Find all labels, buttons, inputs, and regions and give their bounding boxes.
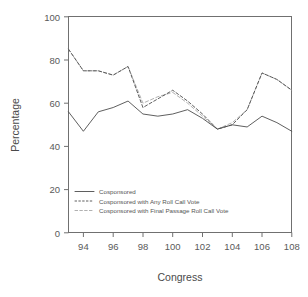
y-axis-title: Percentage	[9, 98, 21, 152]
legend-label-any-roll-call: Cosponsored with Any Roll Call Vote	[99, 198, 200, 205]
chart-canvas: 100 80 60 40 20 0 94 96 98 100 102 104 1…	[0, 0, 308, 297]
legend-label-final-passage: Cosponsored with Final Passage Roll Call…	[99, 207, 229, 214]
x-tick-label-98: 98	[138, 241, 149, 252]
x-axis-title: Congress	[158, 271, 203, 283]
y-tick-label-100: 100	[44, 12, 60, 23]
x-tick-label-104: 104	[224, 241, 240, 252]
y-tick-label-40: 40	[49, 141, 60, 152]
y-tick-label-0: 0	[55, 228, 60, 239]
chart-background	[0, 0, 308, 297]
y-tick-label-80: 80	[49, 55, 60, 66]
y-tick-label-60: 60	[49, 98, 60, 109]
x-tick-label-96: 96	[108, 241, 119, 252]
x-tick-label-108: 108	[284, 241, 300, 252]
line-chart-figure: 100 80 60 40 20 0 94 96 98 100 102 104 1…	[0, 0, 308, 297]
x-tick-label-102: 102	[195, 241, 211, 252]
legend-label-cosponsored: Cosponsored	[99, 188, 136, 195]
x-tick-label-100: 100	[165, 241, 181, 252]
x-tick-label-106: 106	[254, 241, 270, 252]
x-tick-label-94: 94	[78, 241, 89, 252]
y-tick-label-20: 20	[49, 184, 60, 195]
